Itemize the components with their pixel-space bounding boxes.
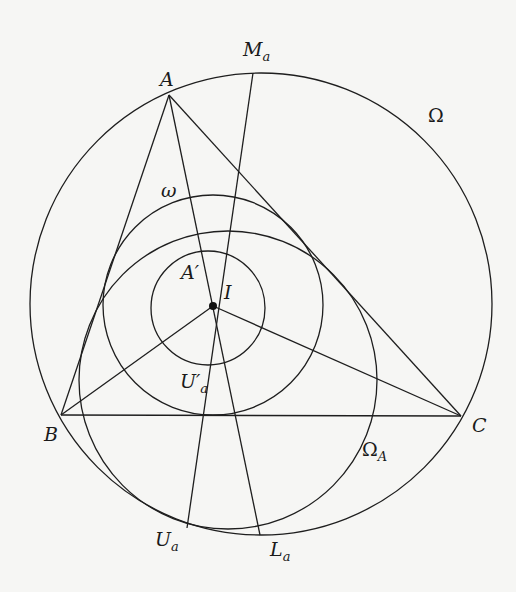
line-ma-ua: [187, 73, 253, 528]
label-u-a-prime: U′a: [180, 372, 208, 391]
label-l-a: La: [270, 540, 290, 559]
diagram-canvas: [0, 0, 516, 592]
label-omega-incircle: ω: [161, 181, 177, 200]
label-a-prime: A′: [181, 263, 199, 282]
side-ca: [169, 95, 461, 416]
side-ab: [61, 95, 169, 415]
label-m-a: Ma: [243, 40, 270, 59]
label-omega-a: ΩA: [362, 440, 387, 459]
label-i: I: [224, 283, 232, 302]
side-bc: [61, 415, 461, 416]
label-a: A: [160, 70, 174, 89]
label-u-a: Ua: [155, 530, 179, 549]
segment-ic: [213, 306, 461, 416]
label-omega-circumcircle: Ω: [428, 106, 444, 125]
geometry-diagram: A B C I Ma Ua La A′ U′a Ω ΩA ω: [0, 0, 516, 592]
segment-ib: [61, 306, 213, 415]
label-b: B: [44, 425, 58, 444]
label-c: C: [472, 416, 487, 435]
line-a-la: [169, 95, 260, 535]
inner-circle: [151, 251, 265, 365]
incenter-dot: [209, 302, 217, 310]
